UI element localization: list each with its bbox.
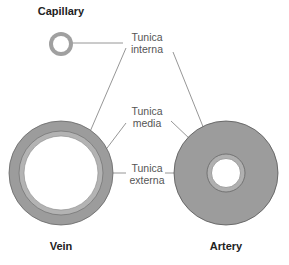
label-tunica-interna-line1: Tunica <box>117 31 177 43</box>
label-tunica-media-line1: Tunica <box>117 105 177 117</box>
artery-title: Artery <box>202 240 250 252</box>
vein-title: Vein <box>37 240 85 252</box>
label-tunica-media: Tunica media <box>117 105 177 129</box>
label-tunica-externa: Tunica externa <box>117 162 177 186</box>
label-tunica-interna-line2: interna <box>117 43 177 55</box>
label-tunica-media-line2: media <box>117 117 177 129</box>
label-tunica-interna: Tunica interna <box>117 31 177 55</box>
blood-vessel-diagram: Capillary Vein Artery Tunica interna Tun… <box>0 0 289 265</box>
artery-cross-section <box>174 121 278 225</box>
label-tunica-externa-line1: Tunica <box>117 162 177 174</box>
label-tunica-externa-line2: externa <box>117 174 177 186</box>
vein-cross-section <box>9 121 113 225</box>
capillary-cross-section <box>49 32 73 56</box>
capillary-title: Capillary <box>37 5 85 17</box>
